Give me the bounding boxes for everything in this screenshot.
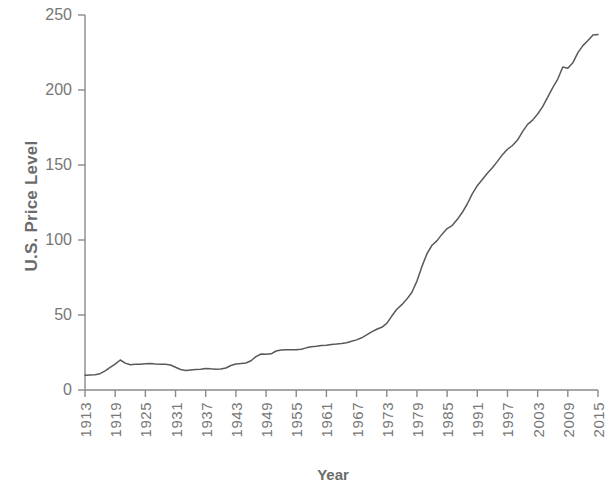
y-tick-label: 100 [16,231,72,249]
x-tick-label: 1931 [168,402,185,437]
x-tick-label: 1919 [107,402,124,437]
x-tick-label: 1937 [198,402,215,437]
x-tick-label: 2015 [590,402,607,437]
x-tick-label: 1943 [228,402,245,437]
x-tick-label: 2009 [560,402,577,437]
y-tick-label: 200 [16,81,72,99]
y-tick-label: 50 [16,306,72,324]
x-tick-label: 1985 [439,402,456,437]
x-tick-label: 1979 [409,402,426,437]
data-series-group [85,35,598,376]
axes [78,15,598,397]
x-tick-label: 1961 [318,402,335,437]
y-tick-label: 150 [16,156,72,174]
y-tick-label-group: 250 200 150 100 50 0 [14,0,72,503]
x-tick-label: 1913 [77,402,94,437]
y-tick-label: 250 [16,6,72,24]
x-tick-label: 1991 [469,402,486,437]
data-line [85,35,598,376]
x-tick-label: 2003 [530,402,547,437]
x-tick-label: 1955 [288,402,305,437]
x-tick-label: 1925 [137,402,154,437]
x-tick-label: 1949 [258,402,275,437]
y-tick-label: 0 [16,381,72,399]
x-axis-title: Year [0,466,614,483]
x-tick-label: 1967 [349,402,366,437]
x-tick-label: 1997 [499,402,516,437]
price-level-chart: U.S. Price Level 250 200 150 100 50 0 19… [0,0,614,503]
x-tick-label: 1973 [379,402,396,437]
